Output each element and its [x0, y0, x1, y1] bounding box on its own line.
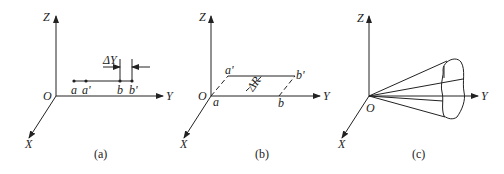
label-a: a: [71, 83, 77, 97]
origin-label: O: [198, 89, 207, 103]
caption-b: (b): [255, 147, 269, 161]
dashed-a-aprime: [211, 76, 228, 96]
y-axis-label: Y: [323, 89, 331, 103]
label-a-prime: a': [82, 83, 91, 97]
cone-base-outline: [441, 59, 464, 119]
origin-label: O: [366, 101, 375, 115]
label-a: a: [213, 95, 219, 109]
delta-y-label: ΔY: [102, 53, 118, 67]
label-b: b: [117, 83, 123, 97]
cone-ray-middle: [369, 96, 443, 101]
x-axis-label: X: [24, 137, 33, 151]
z-axis-label: Z: [357, 11, 364, 25]
diagram-canvas: Z Y X O ΔY a a' b b' (a) Z Y X O ΔR a a': [0, 0, 504, 174]
panel-c: Z Y X O (c): [337, 11, 489, 161]
caption-c: (c): [412, 147, 425, 161]
dashed-b-bprime: [279, 76, 295, 96]
x-axis-label: X: [337, 137, 346, 151]
cone-ray-top: [369, 61, 447, 96]
label-b-prime: b': [129, 83, 138, 97]
panel-b: Z Y X O ΔR a a' b b' (b): [179, 10, 331, 161]
caption-a: (a): [94, 147, 107, 161]
cone-ray-bottom: [369, 96, 445, 117]
x-axis: [342, 96, 369, 138]
label-a-prime: a': [225, 63, 234, 77]
x-axis-label: X: [179, 137, 188, 151]
z-axis-label: Z: [43, 10, 50, 24]
y-axis-label: Y: [166, 89, 174, 103]
cone-ray-upper: [369, 79, 463, 96]
z-axis-label: Z: [199, 10, 206, 24]
label-b-prime: b': [296, 68, 305, 82]
origin-label: O: [43, 89, 52, 103]
y-axis-label: Y: [481, 89, 489, 103]
panel-a: Z Y X O ΔY a a' b b' (a): [24, 10, 174, 161]
label-b: b: [278, 96, 284, 110]
